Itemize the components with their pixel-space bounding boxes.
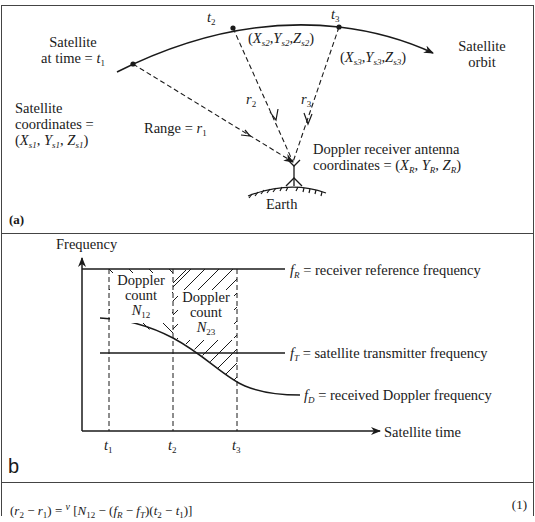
panel-a-label: (a): [9, 212, 24, 228]
equation-1: (r2 − r1) = v [N12 − (fR − fT)(t2 − t1)]: [10, 499, 192, 522]
tick-t1: t1: [104, 437, 113, 458]
panel-b-label: b: [8, 455, 19, 478]
fD-legend: fD = received Doppler frequency: [304, 387, 492, 408]
range-arrowheads: [241, 109, 312, 136]
t2-label: t2: [207, 9, 216, 30]
r2-label: r2: [246, 91, 256, 112]
coords-s3-label: (Xs3,Ys3,Zs3): [340, 49, 406, 70]
doppler-count-n12-label: Doppler count N12: [110, 273, 172, 323]
satellite-orbit-label: Satellite orbit: [437, 38, 527, 70]
x-axis-label: Satellite time: [384, 424, 461, 440]
satellite-t1-label: Satellite at time = t1: [18, 34, 128, 71]
satellite-coordinates-label: Satellite coordinates = (Xs1, Ys1, Zs1): [15, 100, 94, 153]
coords-s2-label: (Xs2,Ys2,Zs2): [248, 30, 314, 51]
satellite-t1-dot: [130, 61, 135, 66]
antenna-icon: [286, 160, 302, 186]
doppler-count-n23-label: Doppler count N23: [178, 290, 234, 340]
antenna-coordinates-label: Doppler receiver antenna coordinates = (…: [313, 141, 461, 178]
tick-t2: t2: [168, 437, 177, 458]
earth-label: Earth: [266, 196, 297, 212]
equation-number: (1): [512, 497, 527, 513]
fT-legend: fT = satellite transmitter frequency: [290, 345, 488, 366]
fR-legend: fR = receiver reference frequency: [290, 262, 481, 283]
range-r1-label: Range = r1: [144, 120, 207, 141]
tick-t3: t3: [232, 437, 241, 458]
r3-label: r3: [301, 91, 311, 112]
y-axis-label: Frequency: [56, 236, 117, 252]
t3-label: t3: [331, 6, 340, 27]
